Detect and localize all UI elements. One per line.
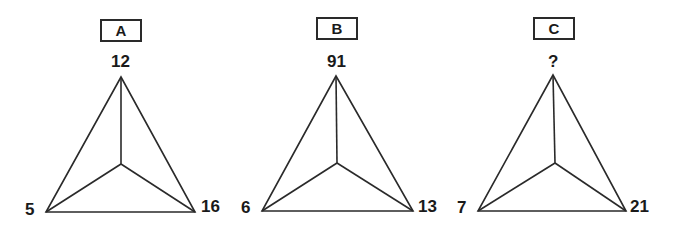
- panel-a-right-number: 16: [201, 198, 220, 216]
- panel-b-right-number: 13: [418, 198, 437, 216]
- panel-b-top-number: 91: [327, 53, 346, 71]
- triangle-b: [262, 76, 413, 211]
- panel-c-right-number: 21: [630, 198, 649, 216]
- panel-a-label: A: [100, 19, 142, 42]
- panel-c-top-number: ?: [548, 53, 558, 71]
- triangle-a: [46, 77, 195, 212]
- panel-b-label: B: [316, 17, 358, 40]
- panel-b-left-number: 6: [241, 199, 250, 217]
- panel-c-left-number: 7: [457, 199, 466, 217]
- triangle-c: [478, 75, 626, 211]
- panel-a-left-number: 5: [25, 201, 34, 219]
- panel-c-label: C: [533, 17, 575, 40]
- panel-a-top-number: 12: [111, 53, 130, 71]
